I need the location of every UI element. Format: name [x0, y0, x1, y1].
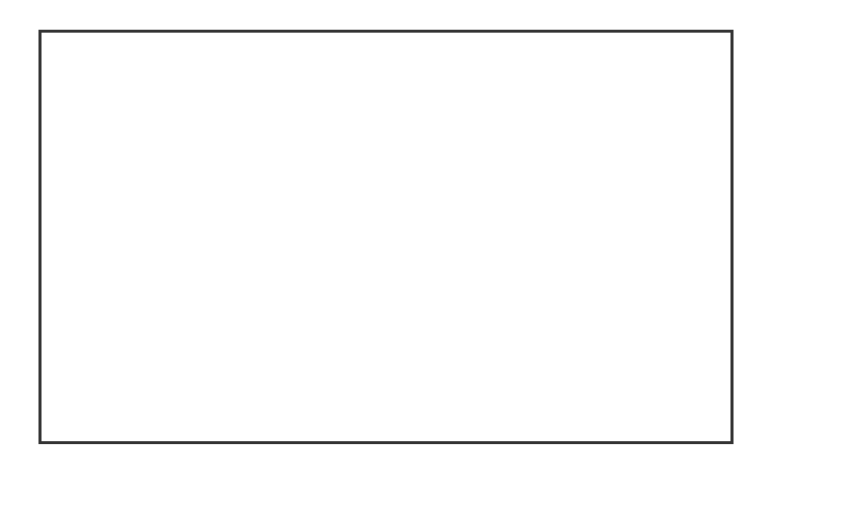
watershed-map	[0, 0, 842, 528]
map-frame	[40, 31, 732, 442]
